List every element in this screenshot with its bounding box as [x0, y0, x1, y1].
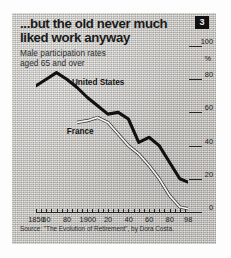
x-axis-minor-tick — [46, 209, 47, 212]
x-axis-tick-label: 20 — [104, 215, 112, 224]
y-axis-rule — [189, 179, 202, 180]
x-axis-minor-tick — [164, 209, 165, 212]
chart-figure: 3 ...but the old never much liked work a… — [0, 0, 231, 258]
x-axis-minor-tick — [87, 209, 88, 212]
y-axis-tick-label: 60 — [205, 103, 213, 112]
y-axis-tick-label: 100 — [201, 37, 213, 46]
series-label-united-states: United States — [72, 78, 124, 87]
y-axis-tick-label: 40 — [205, 137, 213, 146]
y-axis-rule — [189, 112, 202, 113]
x-axis-tick-label: 1900 — [80, 215, 96, 224]
series-label-france: France — [67, 127, 94, 136]
x-axis-minor-tick — [123, 209, 124, 212]
y-axis-rule — [189, 46, 202, 47]
x-axis-tick-label: 80 — [166, 215, 174, 224]
x-axis-minor-tick — [118, 209, 119, 212]
chart-source: Source: "The Evolution of Retirement", b… — [20, 225, 174, 232]
x-axis-tick-label: 80 — [63, 215, 71, 224]
x-axis-minor-tick — [67, 209, 68, 212]
x-axis-minor-tick — [128, 209, 129, 212]
x-axis-minor-tick — [149, 209, 150, 212]
x-axis-minor-tick — [51, 209, 52, 212]
y-axis-tick-label: 0 — [209, 203, 213, 212]
x-axis-minor-tick — [92, 209, 93, 212]
x-axis-minor-tick — [98, 209, 99, 212]
x-axis-minor-tick — [62, 209, 63, 212]
x-axis-minor-tick — [77, 209, 78, 212]
x-axis-minor-tick — [154, 209, 155, 212]
x-axis-minor-tick — [41, 209, 42, 212]
chart-number-badge: 3 — [195, 16, 209, 29]
y-axis-rule — [189, 79, 202, 80]
x-axis-minor-tick — [175, 209, 176, 212]
x-axis-minor-tick — [139, 209, 140, 212]
x-axis-tick-label: 60 — [145, 215, 153, 224]
x-axis-minor-tick — [113, 209, 114, 212]
series-lines — [36, 46, 188, 212]
x-axis-minor-tick — [170, 209, 171, 212]
x-axis-minor-tick — [159, 209, 160, 212]
x-axis-minor-tick — [108, 209, 109, 212]
x-axis-minor-tick — [57, 209, 58, 212]
x-axis-minor-tick — [144, 209, 145, 212]
x-axis-minor-tick — [185, 209, 186, 212]
chart-title: ...but the old never much liked work any… — [20, 17, 196, 45]
x-axis-minor-tick — [134, 209, 135, 212]
x-axis-tick-label: 60 — [42, 215, 50, 224]
y-axis-tick-label: 20 — [205, 170, 213, 179]
y-axis-unit-label: % — [204, 54, 211, 63]
y-axis-rule — [189, 146, 202, 147]
plot-area — [36, 46, 188, 212]
x-axis-minor-tick — [180, 209, 181, 212]
x-axis-minor-tick — [36, 209, 37, 212]
x-axis-baseline — [36, 212, 202, 213]
x-axis-minor-tick — [82, 209, 83, 212]
x-axis-tick-label: 98 — [184, 215, 192, 224]
chart-panel: 3 ...but the old never much liked work a… — [12, 13, 216, 244]
y-axis-tick-label: 80 — [205, 70, 213, 79]
x-axis-tick-label: 40 — [125, 215, 133, 224]
x-axis-minor-tick — [72, 209, 73, 212]
x-axis-minor-tick — [103, 209, 104, 212]
